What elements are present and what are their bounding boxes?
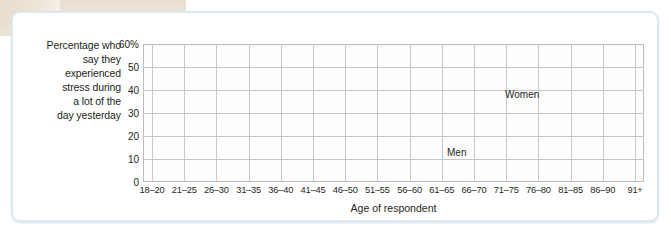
gridline-horizontal xyxy=(143,67,644,68)
gridline-vertical xyxy=(603,44,604,182)
gridline-vertical xyxy=(506,44,507,182)
x-axis-tick-label: 18–20 xyxy=(140,185,165,195)
y-axis-tick-label: 0 xyxy=(103,177,139,188)
series-label-men: Men xyxy=(447,147,466,158)
x-axis-tick-label: 76–80 xyxy=(526,185,551,195)
y-axis-tick-label: 20 xyxy=(103,131,139,142)
x-axis-tick-labels: 18–2021–2526–3031–3536–4041–4546–5051–55… xyxy=(143,185,644,201)
gridline-vertical xyxy=(377,44,378,182)
y-axis-tick-labels: 0102030405060% xyxy=(99,44,139,182)
gridline-vertical xyxy=(410,44,411,182)
gridline-vertical xyxy=(249,44,250,182)
gridline-vertical xyxy=(152,44,153,182)
x-axis-tick-label: 61–65 xyxy=(429,185,454,195)
gridline-horizontal xyxy=(143,113,644,114)
x-axis-tick-label: 41–45 xyxy=(301,185,326,195)
x-axis-tick-label: 86–90 xyxy=(590,185,615,195)
x-axis-tick-label: 31–35 xyxy=(236,185,261,195)
gridline-horizontal xyxy=(143,136,644,137)
gridline-horizontal xyxy=(143,90,644,91)
gridline-vertical xyxy=(571,44,572,182)
gridline-vertical xyxy=(184,44,185,182)
x-axis-tick-label: 91+ xyxy=(627,185,642,195)
x-axis-tick-label: 26–30 xyxy=(204,185,229,195)
x-axis-tick-label: 51–55 xyxy=(365,185,390,195)
gridline-vertical xyxy=(538,44,539,182)
gridline-vertical xyxy=(345,44,346,182)
gridline-vertical xyxy=(313,44,314,182)
y-axis-tick-label: 30 xyxy=(103,108,139,119)
x-axis-tick-label: 21–25 xyxy=(172,185,197,195)
x-axis-tick-label: 46–50 xyxy=(333,185,358,195)
gridline-vertical xyxy=(474,44,475,182)
gridline-vertical xyxy=(442,44,443,182)
x-axis-title: Age of respondent xyxy=(143,202,644,214)
y-axis-tick-label: 40 xyxy=(103,85,139,96)
gridline-vertical xyxy=(281,44,282,182)
x-axis-tick-label: 81–85 xyxy=(558,185,583,195)
y-axis-tick-label: 60% xyxy=(103,39,139,50)
plot-area xyxy=(143,44,644,182)
x-axis-tick-label: 66–70 xyxy=(462,185,487,195)
gridline-vertical xyxy=(216,44,217,182)
x-axis-tick-label: 56–60 xyxy=(397,185,422,195)
x-axis-tick-label: 36–40 xyxy=(268,185,293,195)
gridline-horizontal xyxy=(143,159,644,160)
gridline-vertical xyxy=(635,44,636,182)
y-axis-tick-label: 50 xyxy=(103,62,139,73)
series-label-women: Women xyxy=(505,89,539,100)
y-axis-tick-label: 10 xyxy=(103,154,139,165)
x-axis-tick-label: 71–75 xyxy=(494,185,519,195)
